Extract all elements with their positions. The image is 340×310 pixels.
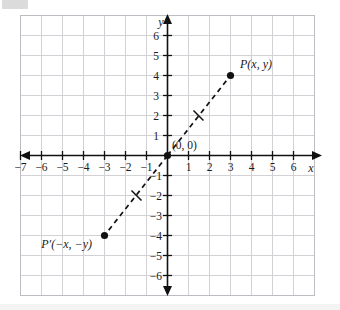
- x-tick-label: 1: [186, 161, 192, 173]
- x-tick-label: −3: [98, 161, 110, 173]
- x-axis-arrow-right: [312, 151, 322, 160]
- label-origin: (0, 0): [172, 139, 197, 152]
- point-P-prime: [101, 232, 108, 239]
- x-tick-label: 6: [291, 161, 297, 173]
- page-edge: [0, 304, 340, 310]
- y-tick-label: 4: [153, 70, 159, 82]
- label-point-P: P(x, y): [239, 57, 272, 71]
- y-tick-label: 2: [153, 110, 159, 122]
- y-tick-label: 6: [153, 30, 159, 42]
- y-tick-label: −4: [150, 230, 162, 242]
- x-tick-label: 3: [228, 161, 234, 173]
- point-P: [227, 72, 234, 79]
- y-tick-label: 3: [153, 90, 159, 102]
- x-tick-label: −4: [77, 161, 89, 173]
- y-tick-label: −5: [150, 250, 162, 262]
- y-tick-label: −3: [150, 210, 162, 222]
- label-point-P-prime: P′(−x, −y): [40, 237, 92, 251]
- x-tick-label: 4: [249, 161, 255, 173]
- x-axis-label: x: [307, 161, 314, 175]
- y-axis-arrow-down: [163, 286, 172, 296]
- point-origin: [164, 152, 171, 159]
- x-tick-label: −2: [119, 161, 131, 173]
- y-tick-label: −2: [150, 190, 162, 202]
- x-axis-arrow-left: [20, 151, 30, 160]
- x-tick-label: −5: [56, 161, 68, 173]
- x-tick-label: 5: [270, 161, 276, 173]
- y-tick-label: 1: [153, 130, 159, 142]
- y-axis-label: y: [157, 15, 164, 29]
- x-tick-label: 2: [207, 161, 213, 173]
- coordinate-plane-figure: −7 −6 −5 −4 −3 −2 −1 1 2 3 4 5 6 6 5 4 3…: [0, 0, 340, 310]
- y-tick-label: 5: [153, 50, 159, 62]
- x-tick-label: −6: [35, 161, 47, 173]
- x-tick-label: −7: [14, 161, 26, 173]
- coordinate-plane-svg: −7 −6 −5 −4 −3 −2 −1 1 2 3 4 5 6 6 5 4 3…: [0, 0, 340, 310]
- y-tick-label: −6: [150, 270, 162, 282]
